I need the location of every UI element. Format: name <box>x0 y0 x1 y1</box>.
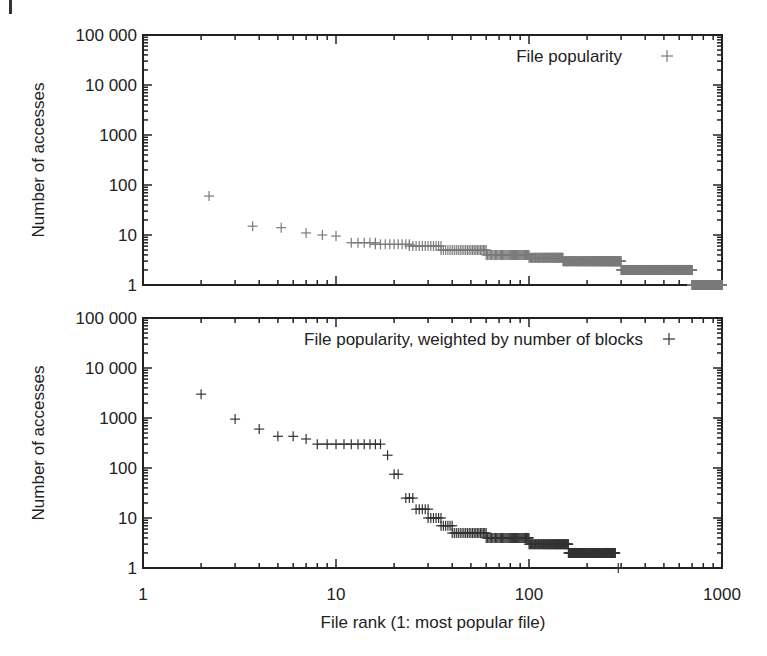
y-tick-label: 10 <box>118 226 137 245</box>
top-y-axis-title: Number of accesses <box>29 83 48 238</box>
y-tick-label: 1000 <box>99 126 137 145</box>
bottom-plot: 110100100010 000100 000 Number of access… <box>29 309 722 578</box>
y-tick-label: 1 <box>128 276 137 295</box>
x-tick-label: 100 <box>515 585 543 604</box>
x-tick-label: 1000 <box>703 585 741 604</box>
top-x-ticks <box>143 35 722 285</box>
y-tick-label: 10 000 <box>85 359 137 378</box>
chart-figure: 110100100010 000100 000 Number of access… <box>0 0 767 656</box>
y-tick-label: 100 <box>109 176 137 195</box>
y-tick-label: 10 000 <box>85 76 137 95</box>
y-tick-label: 1 <box>128 559 137 578</box>
top-legend-label: File popularity <box>516 47 622 66</box>
y-tick-label: 10 <box>118 509 137 528</box>
top-plot: 110100100010 000100 000 Number of access… <box>29 26 727 295</box>
y-tick-label: 100 000 <box>76 26 137 45</box>
bottom-y-ticks: 110100100010 000100 000 <box>76 309 722 578</box>
bottom-plot-frame <box>143 318 722 568</box>
bottom-y-axis-title: Number of accesses <box>29 366 48 521</box>
x-tick-label: 1 <box>138 585 147 604</box>
top-legend-marker-icon <box>661 50 673 62</box>
y-tick-label: 1000 <box>99 409 137 428</box>
y-tick-label: 100 <box>109 459 137 478</box>
top-y-ticks: 110100100010 000100 000 <box>76 26 722 295</box>
bottom-legend-label: File popularity, weighted by number of b… <box>304 330 643 349</box>
x-tick-labels: 1101001000 <box>138 585 741 604</box>
x-axis-title: File rank (1: most popular file) <box>321 613 546 632</box>
bottom-data-points <box>196 389 623 573</box>
top-plot-frame <box>143 35 722 285</box>
x-tick-label: 10 <box>327 585 346 604</box>
y-tick-label: 100 000 <box>76 309 137 328</box>
bottom-legend-marker-icon <box>663 333 675 345</box>
bottom-x-ticks <box>143 318 722 568</box>
top-data-points <box>204 191 727 290</box>
